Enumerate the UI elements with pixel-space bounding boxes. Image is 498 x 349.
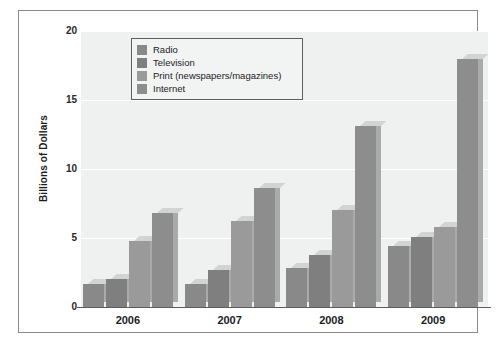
x-axis-line: [77, 307, 491, 308]
y-tick-label: 5: [51, 233, 77, 243]
bar-front-face: [231, 221, 252, 307]
legend-swatch-icon: [137, 58, 147, 68]
bar-front-face: [434, 227, 455, 307]
bar: [457, 54, 483, 307]
legend-item: Television: [137, 56, 297, 69]
bar-side-face: [478, 59, 483, 302]
bar: [152, 208, 178, 307]
y-axis-label: Billions of Dollars: [38, 99, 49, 219]
legend-item: Print (newspapers/magazines): [137, 69, 297, 82]
legend-label: Radio: [153, 44, 178, 55]
chart-figure: 05101520 Billions of Dollars 20062007200…: [0, 0, 498, 349]
bar-front-face: [457, 59, 478, 307]
bar-front-face: [254, 188, 275, 307]
legend-label: Television: [153, 57, 195, 68]
x-tick-label: 2007: [195, 314, 265, 326]
legend-item: Radio: [137, 43, 297, 56]
y-tick-label: 20: [51, 26, 77, 36]
bar-side-face: [376, 126, 381, 302]
y-tick-label: 15: [51, 95, 77, 105]
bar-front-face: [129, 241, 150, 307]
bar-front-face: [411, 237, 432, 307]
figure-frame: 05101520 Billions of Dollars 20062007200…: [18, 10, 478, 333]
bar-front-face: [286, 268, 307, 307]
bar-front-face: [152, 213, 173, 307]
bar-front-face: [309, 255, 330, 307]
legend-label: Internet: [153, 83, 185, 94]
bar-front-face: [332, 210, 353, 307]
legend-swatch-icon: [137, 71, 147, 81]
bar-front-face: [83, 284, 104, 307]
chart-legend: RadioTelevisionPrint (newspapers/magazin…: [131, 38, 303, 100]
y-axis-ticks: 05101520: [47, 11, 77, 349]
y-tick-mark: [77, 307, 81, 308]
bar-side-face: [275, 188, 280, 302]
bar-side-face: [173, 213, 178, 302]
legend-label: Print (newspapers/magazines): [153, 70, 281, 81]
legend-swatch-icon: [137, 84, 147, 94]
y-tick-label: 0: [51, 302, 77, 312]
bar-front-face: [355, 126, 376, 307]
bar-front-face: [185, 284, 206, 307]
bar-front-face: [208, 270, 229, 307]
bar: [355, 121, 381, 307]
legend-swatch-icon: [137, 45, 147, 55]
bar-front-face: [388, 246, 409, 307]
x-tick-label: 2008: [296, 314, 366, 326]
bar: [254, 183, 280, 307]
legend-item: Internet: [137, 82, 297, 95]
x-tick-label: 2006: [93, 314, 163, 326]
bar-front-face: [106, 279, 127, 307]
x-tick-label: 2009: [398, 314, 468, 326]
y-tick-label: 10: [51, 164, 77, 174]
